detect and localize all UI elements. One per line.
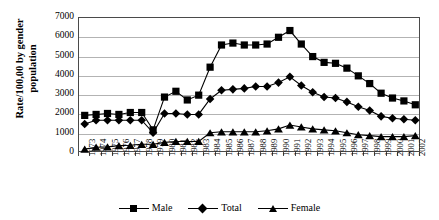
diamond-marker <box>206 95 215 104</box>
x-axis-tick-label: 2001 <box>407 139 416 156</box>
square-marker <box>130 205 137 212</box>
square-marker <box>400 97 407 104</box>
square-marker <box>343 65 350 72</box>
legend-item-male[interactable]: Male <box>119 203 173 214</box>
square-marker <box>321 59 328 66</box>
x-axis-tick-label: 1998 <box>373 139 382 156</box>
diamond-marker <box>388 114 397 123</box>
x-axis-tick-label: 1983 <box>202 139 211 156</box>
legend-item-female[interactable]: Female <box>258 203 320 214</box>
diamond-marker <box>274 78 283 87</box>
x-axis-tick-label: 1978 <box>145 139 154 156</box>
legend-label: Total <box>221 203 241 213</box>
y-axis-tick-label: 3000 <box>4 89 78 99</box>
square-marker <box>355 72 362 79</box>
legend-key <box>119 203 149 214</box>
legend-key <box>188 203 218 214</box>
x-axis-tick-label: 2000 <box>396 139 405 156</box>
legend-label: Male <box>152 203 173 213</box>
x-axis-tick-label: 1987 <box>247 139 256 156</box>
diamond-marker <box>320 93 329 102</box>
square-marker <box>241 41 248 48</box>
x-axis-tick-label: 1989 <box>270 139 279 156</box>
diamond-marker <box>263 82 272 91</box>
square-marker <box>195 92 202 99</box>
square-marker <box>286 27 293 34</box>
legend-label: Female <box>291 203 320 213</box>
square-marker <box>218 41 225 48</box>
diamond-marker <box>229 85 238 94</box>
square-marker <box>298 40 305 47</box>
y-axis-tick-label: 2000 <box>4 108 78 118</box>
diamond-marker <box>411 116 420 125</box>
square-marker <box>366 80 373 87</box>
y-axis-tick-label: 1000 <box>4 128 78 138</box>
chart-legend: MaleTotalFemale <box>0 198 439 218</box>
diamond-marker <box>343 98 352 107</box>
x-axis-tick-label: 2002 <box>418 139 427 156</box>
diamond-marker <box>331 94 340 103</box>
square-marker <box>412 101 419 108</box>
y-axis-tick-label: 6000 <box>4 31 78 41</box>
diamond-marker <box>160 109 169 118</box>
x-axis-tick-label: 1994 <box>327 139 336 156</box>
plot-area <box>78 17 420 152</box>
diamond-marker <box>183 110 192 119</box>
square-marker <box>138 109 145 116</box>
x-axis-tick-label: 1993 <box>316 139 325 156</box>
x-axis-tick-label: 1985 <box>225 139 234 156</box>
diamond-marker <box>354 102 363 111</box>
x-axis-tick-label: 1990 <box>282 139 291 156</box>
diamond-marker <box>400 115 409 124</box>
x-axis-tick-labels: 1973197419751976197719781979198019811982… <box>78 156 420 198</box>
square-marker <box>309 53 316 60</box>
x-axis-tick-label: 1988 <box>259 139 268 156</box>
x-axis-tick-label: 1975 <box>111 139 120 156</box>
square-marker <box>252 41 259 48</box>
x-axis-tick-label: 1979 <box>156 139 165 156</box>
x-axis-tick-label: 1981 <box>179 139 188 156</box>
x-axis-tick-label: 1992 <box>304 139 313 156</box>
square-marker <box>161 93 168 100</box>
y-axis-tick-label: 4000 <box>4 70 78 80</box>
x-axis-tick-label: 1996 <box>350 139 359 156</box>
x-axis-tick-label: 1980 <box>168 139 177 156</box>
diamond-marker <box>172 109 181 118</box>
square-marker <box>389 94 396 101</box>
x-axis-tick-label: 1977 <box>133 139 142 156</box>
diamond-marker <box>198 203 208 213</box>
diamond-marker <box>240 84 249 93</box>
series-layer <box>79 18 421 153</box>
diamond-marker <box>126 116 135 125</box>
x-axis-tick-label: 1986 <box>236 139 245 156</box>
diamond-marker <box>286 73 295 82</box>
square-marker <box>378 90 385 97</box>
series-line <box>85 77 416 133</box>
x-axis-tick-label: 1976 <box>122 139 131 156</box>
diamond-marker <box>194 110 203 119</box>
x-axis-tick-label: 1999 <box>384 139 393 156</box>
legend-item-total[interactable]: Total <box>188 203 241 214</box>
diamond-marker <box>308 88 317 97</box>
diamond-marker <box>365 106 374 115</box>
diamond-marker <box>251 82 260 91</box>
y-axis-tick-label: 5000 <box>4 51 78 61</box>
series-line <box>85 31 416 130</box>
x-axis-tick-label: 1997 <box>361 139 370 156</box>
line-chart: Rate/100,00 by gender population 7000600… <box>0 0 439 220</box>
x-axis-tick-label: 1974 <box>99 139 108 156</box>
square-marker <box>275 34 282 41</box>
square-marker <box>172 88 179 95</box>
x-axis-tick-label: 1991 <box>293 139 302 156</box>
legend-key <box>258 203 288 214</box>
square-marker <box>264 40 271 47</box>
diamond-marker <box>103 116 112 125</box>
y-axis-tick-label: 0 <box>4 147 78 157</box>
square-marker <box>81 112 88 119</box>
triangle-marker <box>269 205 277 212</box>
x-axis-tick-label: 1982 <box>190 139 199 156</box>
square-marker <box>184 96 191 103</box>
square-marker <box>207 64 214 71</box>
diamond-marker <box>217 86 226 95</box>
x-axis-tick-label: 1973 <box>88 139 97 156</box>
